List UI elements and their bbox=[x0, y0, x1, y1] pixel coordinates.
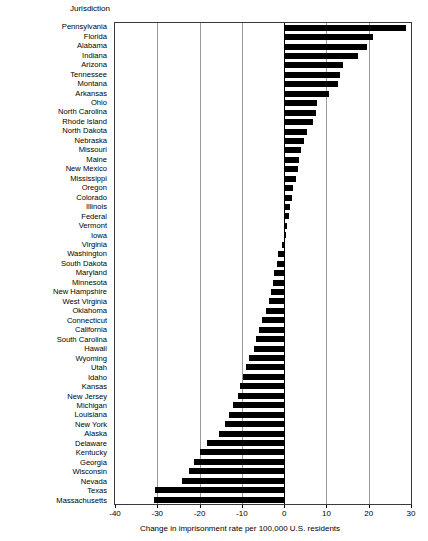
bar-row bbox=[115, 306, 411, 315]
category-label: Minnesota bbox=[0, 278, 110, 287]
bar-row bbox=[115, 391, 411, 400]
category-label: New Mexico bbox=[0, 164, 110, 173]
x-tick-mark bbox=[242, 505, 243, 508]
category-label: Illinois bbox=[0, 202, 110, 211]
bar bbox=[194, 459, 284, 465]
bar-row bbox=[115, 268, 411, 277]
bar bbox=[284, 232, 286, 238]
category-label: Colorado bbox=[0, 192, 110, 201]
category-label: Nevada bbox=[0, 477, 110, 486]
category-label: Kansas bbox=[0, 382, 110, 391]
category-label: Pennsylvania bbox=[0, 22, 110, 31]
bar bbox=[259, 327, 284, 333]
bar-row bbox=[115, 212, 411, 221]
bar-row bbox=[115, 353, 411, 362]
category-label: Virginia bbox=[0, 240, 110, 249]
x-tick-label: 10 bbox=[322, 509, 331, 519]
category-label: Oklahoma bbox=[0, 306, 110, 315]
column-header-jurisdiction: Jurisdiction bbox=[0, 4, 110, 13]
bar-row bbox=[115, 485, 411, 494]
category-label: Louisiana bbox=[0, 410, 110, 419]
category-label: Kentucky bbox=[0, 448, 110, 457]
x-tick-label: -40 bbox=[109, 509, 121, 519]
bar bbox=[284, 138, 303, 144]
bar bbox=[256, 336, 284, 342]
bar bbox=[274, 270, 284, 276]
bar bbox=[262, 317, 284, 323]
x-axis-title: Change in imprisonment rate per 100,000 … bbox=[60, 524, 420, 534]
bar-row bbox=[115, 259, 411, 268]
bar-row bbox=[115, 401, 411, 410]
category-label: Florida bbox=[0, 31, 110, 40]
category-label: Connecticut bbox=[0, 316, 110, 325]
x-tick-mark bbox=[200, 505, 201, 508]
bar bbox=[278, 251, 284, 257]
plot-area bbox=[114, 22, 412, 505]
bar-row bbox=[115, 146, 411, 155]
bar bbox=[284, 100, 317, 106]
bar-row bbox=[115, 438, 411, 447]
bar bbox=[266, 308, 284, 314]
bar bbox=[284, 110, 316, 116]
category-label: Montana bbox=[0, 79, 110, 88]
category-label: Mississippi bbox=[0, 174, 110, 183]
bar-row bbox=[115, 457, 411, 466]
bar bbox=[284, 34, 373, 40]
bar-row bbox=[115, 325, 411, 334]
bar bbox=[282, 242, 284, 248]
category-label: Federal bbox=[0, 211, 110, 220]
bar bbox=[240, 383, 284, 389]
category-label: Massachusetts bbox=[0, 495, 110, 504]
bar-row bbox=[115, 495, 411, 504]
bar-row bbox=[115, 297, 411, 306]
category-label: Alabama bbox=[0, 41, 110, 50]
bar bbox=[284, 185, 293, 191]
x-tick-mark bbox=[157, 505, 158, 508]
bar bbox=[273, 280, 284, 286]
category-label: South Dakota bbox=[0, 259, 110, 268]
bar-row bbox=[115, 155, 411, 164]
category-label: Nebraska bbox=[0, 136, 110, 145]
bar bbox=[284, 119, 313, 125]
category-label: Michigan bbox=[0, 401, 110, 410]
category-axis-labels: PennsylvaniaFloridaAlabamaIndianaArizona… bbox=[0, 22, 110, 505]
bar bbox=[271, 289, 285, 295]
x-tick-mark bbox=[411, 505, 412, 508]
bar bbox=[284, 72, 340, 78]
x-tick-mark bbox=[369, 505, 370, 508]
bar-row bbox=[115, 363, 411, 372]
bar-row bbox=[115, 344, 411, 353]
bar-chart: Jurisdiction PennsylvaniaFloridaAlabamaI… bbox=[0, 0, 428, 541]
bar-row bbox=[115, 221, 411, 230]
bar-row bbox=[115, 419, 411, 428]
bar bbox=[238, 393, 285, 399]
x-tick-mark bbox=[326, 505, 327, 508]
bar bbox=[284, 81, 338, 87]
category-label: Maine bbox=[0, 155, 110, 164]
x-tick-mark bbox=[284, 505, 285, 508]
bar-row bbox=[115, 108, 411, 117]
bar-row bbox=[115, 42, 411, 51]
category-label: Wisconsin bbox=[0, 467, 110, 476]
bar bbox=[200, 449, 285, 455]
category-label: California bbox=[0, 325, 110, 334]
category-label: Ohio bbox=[0, 98, 110, 107]
category-label: South Carolina bbox=[0, 334, 110, 343]
category-label: Maryland bbox=[0, 268, 110, 277]
bar-row bbox=[115, 183, 411, 192]
x-tick-label: 20 bbox=[364, 509, 373, 519]
category-label: Indiana bbox=[0, 50, 110, 59]
category-label: Idaho bbox=[0, 372, 110, 381]
bar bbox=[182, 478, 284, 484]
bar bbox=[207, 440, 284, 446]
bar-row bbox=[115, 202, 411, 211]
category-label: Missouri bbox=[0, 145, 110, 154]
category-label: West Virginia bbox=[0, 297, 110, 306]
bar-row bbox=[115, 250, 411, 259]
bar bbox=[189, 468, 284, 474]
x-tick-label: 30 bbox=[407, 509, 416, 519]
bar bbox=[284, 204, 290, 210]
bar-row bbox=[115, 316, 411, 325]
bar bbox=[277, 261, 285, 267]
bar-row bbox=[115, 240, 411, 249]
